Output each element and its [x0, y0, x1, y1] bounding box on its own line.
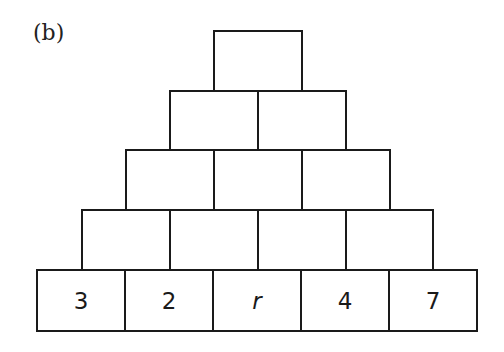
pyramid-cell-bottom-5: 7 [388, 269, 478, 332]
pyramid-cell-r4-2[interactable] [257, 90, 347, 151]
pyramid-cell-top[interactable] [213, 30, 303, 92]
pyramid-cell-r2-4[interactable] [345, 209, 434, 271]
pyramid-cell-bottom-4: 4 [300, 269, 390, 332]
pyramid-cell-r3-3[interactable] [301, 149, 391, 211]
pyramid-cell-bottom-1: 3 [36, 269, 126, 332]
pyramid-cell-r2-1[interactable] [81, 209, 171, 271]
part-label: (b) [33, 20, 64, 45]
pyramid-cell-r4-1[interactable] [169, 90, 259, 151]
pyramid-cell-bottom-3: r [212, 269, 302, 332]
pyramid-cell-r3-2[interactable] [213, 149, 303, 211]
pyramid-cell-r2-2[interactable] [169, 209, 259, 271]
pyramid-cell-r3-1[interactable] [125, 149, 215, 211]
pyramid-cell-bottom-2: 2 [124, 269, 214, 332]
pyramid-cell-r2-3[interactable] [257, 209, 347, 271]
